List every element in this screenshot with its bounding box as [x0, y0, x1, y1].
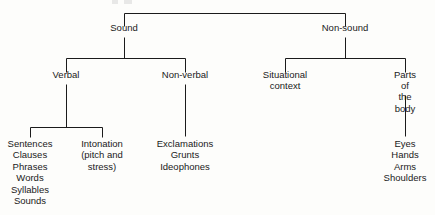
edge-verbal-children	[31, 128, 103, 138]
node-vocal-noises: Exclamations Grunts Ideophones	[157, 138, 214, 172]
node-linguistic-units: Sentences Clauses Phrases Words Syllable…	[8, 138, 53, 206]
node-parts-of-the-body: Parts of the body	[390, 69, 420, 114]
node-non-sound: Non-sound	[322, 22, 368, 33]
node-sound: Sound	[110, 22, 137, 33]
tree-diagram: Sound Non-sound Verbal Non-verbal Situat…	[0, 0, 435, 215]
node-intonation: Intonation (pitch and stress)	[81, 138, 123, 172]
node-body-part-list: Eyes Hands Arms Shoulders	[384, 138, 427, 184]
node-situational-context: Situational context	[263, 69, 307, 91]
tree-connector-lines	[0, 0, 435, 215]
edge-root-children	[125, 14, 346, 27]
node-verbal: Verbal	[53, 69, 80, 80]
node-non-verbal: Non-verbal	[162, 69, 208, 80]
